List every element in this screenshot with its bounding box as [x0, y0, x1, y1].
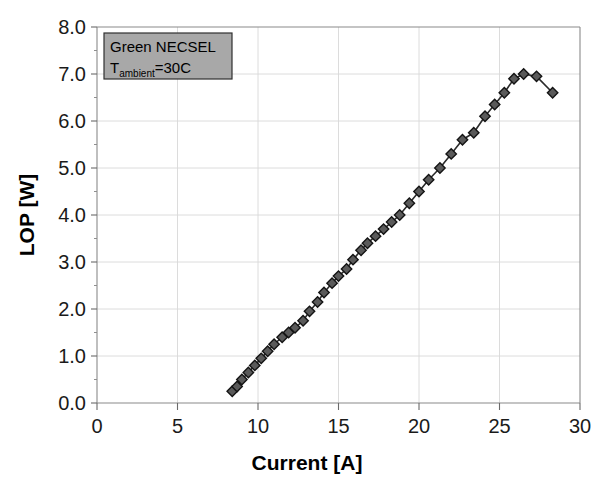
annotation-value: =30C [155, 59, 191, 76]
x-tick-label: 15 [327, 415, 349, 437]
y-tick-label: 3.0 [58, 251, 86, 273]
x-tick-label: 20 [408, 415, 430, 437]
y-tick-label: 6.0 [58, 110, 86, 132]
x-tick-label: 30 [569, 415, 591, 437]
chart-figure: 0.01.02.03.04.05.06.07.08.0 051015202530… [0, 0, 614, 490]
lop-current-chart: 0.01.02.03.04.05.06.07.08.0 051015202530… [0, 0, 614, 490]
annotation-t-symbol: T [110, 59, 119, 76]
x-tick-label: 5 [172, 415, 183, 437]
annotation-line-1: Green NECSEL [110, 38, 216, 55]
annotation-box: Green NECSEL Tambient=30C [104, 33, 232, 79]
y-tick-label: 1.0 [58, 345, 86, 367]
y-tick-label: 4.0 [58, 204, 86, 226]
y-tick-label: 7.0 [58, 63, 86, 85]
y-axis-title: LOP [W] [15, 174, 38, 256]
x-axis-title: Current [A] [252, 451, 363, 474]
annotation-subscript: ambient [119, 68, 155, 79]
y-tick-label: 8.0 [58, 16, 86, 38]
y-tick-label: 0.0 [58, 392, 86, 414]
x-tick-label: 10 [247, 415, 269, 437]
x-tick-label: 25 [488, 415, 510, 437]
y-tick-label: 5.0 [58, 157, 86, 179]
y-tick-label: 2.0 [58, 298, 86, 320]
x-tick-label: 0 [91, 415, 102, 437]
